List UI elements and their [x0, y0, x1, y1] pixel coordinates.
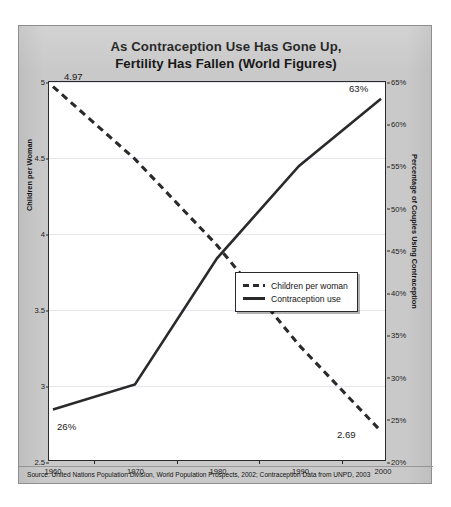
- legend-item: Children per woman: [243, 279, 348, 292]
- series-plot: [49, 82, 385, 460]
- chart-legend: Children per womanContraception use: [235, 272, 358, 312]
- left-axis-tick-label: 4.5: [34, 154, 45, 163]
- contraception-start-label: 26%: [57, 421, 76, 432]
- right-axis-tick-label: 65%: [391, 78, 406, 87]
- right-axis-tick-label: 25%: [391, 415, 406, 424]
- right-axis-tick-label: 60%: [391, 120, 406, 129]
- right-axis-tick-label: 40%: [391, 289, 406, 298]
- left-axis-tick-label: 4: [41, 230, 45, 239]
- solid-line-icon: [243, 294, 265, 303]
- chart-page: As Contraception Use Has Gone Up, Fertil…: [0, 0, 451, 507]
- fertility-end-label: 2.69: [337, 429, 356, 440]
- left-axis-tick-label: 5: [41, 78, 45, 87]
- legend-item-label: Contraception use: [271, 294, 341, 304]
- right-axis-title: Percentage of Couples Using Contraceptio…: [410, 154, 419, 309]
- x-axis-tick-mark: [177, 460, 178, 464]
- fertility-start-label: 4.97: [64, 71, 83, 82]
- legend-item: Contraception use: [243, 292, 348, 305]
- chart-title: As Contraception Use Has Gone Up, Fertil…: [19, 38, 433, 72]
- right-axis-tick-label: 55%: [391, 162, 406, 171]
- chart-title-line-2: Fertility Has Fallen (World Figures): [19, 55, 433, 72]
- legend-item-label: Children per woman: [271, 281, 348, 291]
- x-axis-tick-mark: [94, 460, 95, 464]
- chart-title-line-1: As Contraception Use Has Gone Up,: [110, 39, 341, 54]
- left-axis-tick-label: 3: [41, 382, 45, 391]
- contraception-end-label: 63%: [349, 83, 368, 94]
- right-axis-tick-label: 30%: [391, 373, 406, 382]
- left-axis-tick-label: 3.5: [34, 306, 45, 315]
- dashed-line-icon: [243, 281, 265, 290]
- chart-card: As Contraception Use Has Gone Up, Fertil…: [18, 25, 432, 484]
- source-note: Source: United Nations Population Divisi…: [19, 466, 433, 483]
- plot-area: 54.543.532.5 65%60%55%50%45%40%35%30%25%…: [48, 81, 386, 461]
- right-axis-tick-label: 50%: [391, 204, 406, 213]
- x-axis-tick-mark: [259, 460, 260, 464]
- right-axis-tick-label: 35%: [391, 331, 406, 340]
- x-axis-tick-mark: [342, 460, 343, 464]
- right-axis-tick-label: 45%: [391, 246, 406, 255]
- left-axis-title: Children per Woman: [25, 139, 34, 211]
- contraception-line: [53, 99, 381, 410]
